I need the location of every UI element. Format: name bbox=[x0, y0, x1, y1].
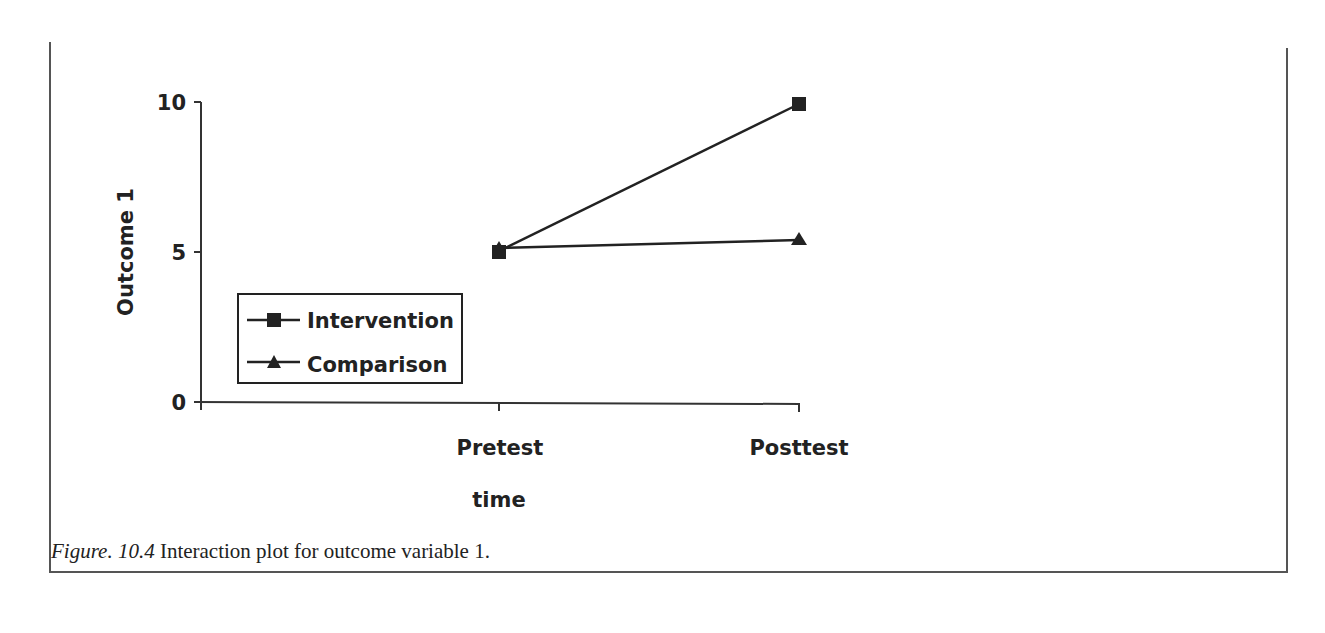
legend-label-intervention: Intervention bbox=[307, 309, 454, 333]
x-axis bbox=[194, 402, 800, 404]
legend: Intervention Comparison bbox=[238, 294, 462, 383]
series-line-comparison bbox=[499, 240, 799, 248]
marker-comparison-posttest bbox=[791, 232, 807, 245]
x-axis-label: time bbox=[472, 488, 525, 512]
figure-caption: Figure. 10.4 Interaction plot for outcom… bbox=[51, 539, 490, 564]
y-axis-label: Outcome 1 bbox=[114, 188, 138, 316]
figure-number: Figure. 10.4 bbox=[51, 539, 155, 563]
x-tick-label-posttest: Posttest bbox=[749, 436, 848, 460]
legend-square-icon bbox=[267, 313, 281, 327]
legend-label-comparison: Comparison bbox=[307, 353, 447, 377]
series-line-intervention bbox=[499, 104, 799, 251]
x-tick-label-pretest: Pretest bbox=[457, 436, 544, 460]
marker-intervention-posttest bbox=[792, 97, 806, 111]
y-tick-label-5: 5 bbox=[171, 241, 186, 265]
y-tick-label-0: 0 bbox=[171, 391, 186, 415]
figure-caption-text: Interaction plot for outcome variable 1. bbox=[155, 539, 490, 563]
y-tick-label-10: 10 bbox=[157, 91, 186, 115]
